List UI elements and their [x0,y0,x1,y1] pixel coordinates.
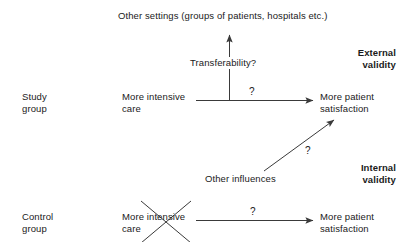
edge-label-diagonal-question: ? [305,146,311,156]
node-control-intervention: More intensive care [122,211,185,235]
edge-label-transferability: Transferability? [187,57,259,69]
node-study-outcome: More patient satisfaction [320,91,374,115]
label-study-group: Study group [22,91,47,115]
node-other-influences: Other influences [203,173,278,185]
edge-label-study-question: ? [249,87,255,97]
label-control-group: Control group [22,211,53,235]
diagram-canvas: Other settings (groups of patients, hosp… [0,0,408,242]
diagram-arrows-layer [0,0,408,242]
label-external-validity: External validity [316,47,396,71]
node-other-settings: Other settings (groups of patients, hosp… [118,10,327,22]
node-control-outcome: More patient satisfaction [320,211,374,235]
edge-label-control-question: ? [250,207,256,217]
label-internal-validity: Internal validity [316,162,396,186]
node-study-intervention: More intensive care [122,91,187,115]
